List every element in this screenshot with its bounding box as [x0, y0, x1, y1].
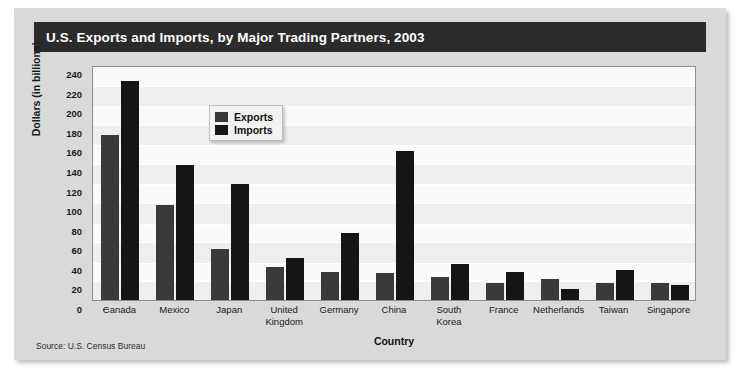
x-tick-label-line: France — [476, 304, 531, 316]
x-tick-label: Singapore — [641, 304, 696, 316]
x-tick-label-line: Mexico — [147, 304, 202, 316]
bar-exports — [486, 283, 504, 300]
x-tick-label: Taiwan — [586, 304, 641, 316]
bar-imports — [616, 270, 634, 300]
bar-group — [532, 67, 587, 300]
bar-group — [642, 67, 696, 300]
y-tick-label: 180 — [66, 127, 82, 138]
bar-group — [422, 67, 477, 300]
x-tick-label: UnitedKingdom — [257, 304, 312, 327]
chart-card: U.S. Exports and Imports, by Major Tradi… — [14, 8, 726, 360]
y-tick-label: 20 — [71, 284, 82, 295]
bar-imports — [561, 289, 579, 300]
bar-group — [587, 67, 642, 300]
bar-imports — [451, 264, 469, 300]
x-tick-label-line: Kingdom — [257, 316, 312, 328]
x-tick-label: China — [367, 304, 422, 316]
source-note: Source: U.S. Census Bureau — [36, 341, 145, 351]
y-tick-label: 200 — [66, 108, 82, 119]
x-tick-label: Mexico — [147, 304, 202, 316]
legend-label-imports: Imports — [234, 124, 273, 136]
chart-region: Dollars (in billions) 020406080100120140… — [34, 58, 706, 338]
bar-imports — [396, 151, 414, 300]
bar-exports — [651, 283, 669, 300]
x-axis-title: Country — [92, 335, 696, 347]
x-tick-label: Germany — [312, 304, 367, 316]
y-tick-label: 100 — [66, 206, 82, 217]
legend-item-imports: Imports — [215, 123, 273, 136]
x-tick-label-line: Japan — [202, 304, 257, 316]
bar-exports — [376, 273, 394, 300]
y-tick-label: 80 — [71, 225, 82, 236]
chart-title-bar: U.S. Exports and Imports, by Major Tradi… — [34, 22, 706, 52]
exports-swatch-icon — [215, 112, 228, 122]
y-tick-label: 160 — [66, 147, 82, 158]
bar-imports — [286, 258, 304, 300]
x-tick-label: Netherlands — [531, 304, 586, 316]
bar-group — [477, 67, 532, 300]
legend-item-exports: Exports — [215, 110, 273, 123]
x-tick-label-line: United — [257, 304, 312, 316]
bar-exports — [431, 277, 449, 301]
x-tick-label-line: Germany — [312, 304, 367, 316]
x-tick-label-line: Korea — [421, 316, 476, 328]
bar-imports — [506, 272, 524, 300]
y-tick-label: 140 — [66, 166, 82, 177]
x-tick-label-line: South — [421, 304, 476, 316]
x-tick-label: Canada — [92, 304, 147, 316]
x-tick-label: SouthKorea — [421, 304, 476, 327]
chart-page: U.S. Exports and Imports, by Major Tradi… — [0, 0, 752, 377]
y-tick-label: 120 — [66, 186, 82, 197]
bar-exports — [211, 249, 229, 300]
x-tick-label-line: Taiwan — [586, 304, 641, 316]
bar-exports — [541, 279, 559, 300]
x-tick-label: Japan — [202, 304, 257, 316]
chart-legend: Exports Imports — [209, 105, 283, 141]
y-tick-label: 60 — [71, 245, 82, 256]
x-tick-label-line: Canada — [92, 304, 147, 316]
bar-group — [258, 67, 313, 300]
y-tick-label: 220 — [66, 88, 82, 99]
x-axis-ticks: CanadaMexicoJapanUnitedKingdomGermanyChi… — [92, 304, 696, 338]
plot-area: Exports Imports — [92, 66, 696, 301]
bar-imports — [341, 233, 359, 300]
page-title: U.S. Exports and Imports, by Major Tradi… — [46, 30, 425, 45]
bar-group — [368, 67, 423, 300]
bar-exports — [266, 267, 284, 300]
bar-exports — [596, 283, 614, 300]
bar-group — [93, 67, 148, 300]
y-tick-label: 40 — [71, 264, 82, 275]
bar-imports — [176, 165, 194, 300]
y-tick-label: 0 — [77, 304, 82, 315]
x-tick-label-line: Netherlands — [531, 304, 586, 316]
legend-label-exports: Exports — [234, 111, 273, 123]
y-axis-title: Dollars (in billions) — [30, 24, 42, 154]
bar-exports — [321, 272, 339, 300]
bar-imports — [121, 81, 139, 300]
bar-group — [313, 67, 368, 300]
x-tick-label-line: Singapore — [641, 304, 696, 316]
y-axis-ticks: 020406080100120140160180200220240 — [52, 66, 82, 301]
bar-exports — [156, 205, 174, 300]
bar-group — [148, 67, 203, 300]
imports-swatch-icon — [215, 125, 228, 135]
x-tick-label: France — [476, 304, 531, 316]
bar-exports — [101, 135, 119, 300]
bar-group — [203, 67, 258, 300]
y-tick-label: 240 — [66, 69, 82, 80]
x-tick-label-line: China — [367, 304, 422, 316]
bar-imports — [671, 285, 689, 300]
bar-imports — [231, 184, 249, 300]
bars-layer — [93, 67, 695, 300]
